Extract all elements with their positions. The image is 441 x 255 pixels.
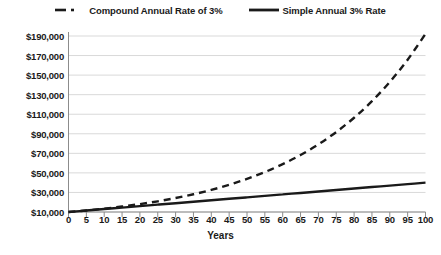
- plot-area: [0, 20, 441, 220]
- x-axis-tick-label: 75: [331, 214, 341, 225]
- legend-label-compound: Compound Annual Rate of 3%: [89, 5, 222, 16]
- x-axis-title: Years: [0, 230, 441, 241]
- x-axis-tick-label: 25: [153, 214, 163, 225]
- y-axis-tick-label: $110,000: [0, 109, 64, 120]
- y-axis-tick-label: $130,000: [0, 89, 64, 100]
- x-axis-tick-label: 15: [117, 214, 127, 225]
- y-axis-tick-label: $70,000: [0, 148, 64, 159]
- x-axis-tick-label: 40: [206, 214, 216, 225]
- y-axis-tick-label: $190,000: [0, 31, 64, 42]
- y-axis-tick-label: $30,000: [0, 187, 64, 198]
- x-axis-tick-label: 65: [295, 214, 305, 225]
- legend-label-simple: Simple Annual 3% Rate: [283, 5, 386, 16]
- x-axis-tick-label: 80: [349, 214, 359, 225]
- legend-entry-compound[interactable]: Compound Annual Rate of 3%: [55, 5, 222, 16]
- solid-line-marker-icon: [249, 5, 279, 15]
- series-line-compound: [69, 34, 426, 212]
- y-axis-tick-label: $50,000: [0, 167, 64, 178]
- dashed-line-marker-icon: [55, 5, 85, 15]
- x-axis-tick-label: 45: [224, 214, 234, 225]
- x-axis-tick-label: 50: [242, 214, 252, 225]
- x-axis-tick-label: 5: [84, 214, 89, 225]
- y-axis-tick-label: $90,000: [0, 128, 64, 139]
- chart-container: Compound Annual Rate of 3% Simple Annual…: [0, 0, 441, 255]
- plot-svg: [0, 20, 441, 220]
- legend-entry-simple[interactable]: Simple Annual 3% Rate: [249, 5, 386, 16]
- x-axis-tick-label: 20: [135, 214, 145, 225]
- x-axis-labels: 0510152025303540455055606570758085909510…: [0, 214, 441, 228]
- x-axis-tick-label: 95: [403, 214, 413, 225]
- series-line-simple: [69, 183, 426, 212]
- gridlines: [69, 36, 426, 212]
- x-axis-tick-label: 100: [418, 214, 433, 225]
- y-axis-tick-label: $150,000: [0, 70, 64, 81]
- x-axis-tick-label: 55: [260, 214, 270, 225]
- x-axis-tick-label: 35: [188, 214, 198, 225]
- y-axis-labels: $10,000$30,000$50,000$70,000$90,000$110,…: [0, 20, 64, 220]
- x-axis-tick-label: 85: [367, 214, 377, 225]
- chart-legend: Compound Annual Rate of 3% Simple Annual…: [0, 0, 441, 20]
- x-axis-tick-label: 0: [66, 214, 71, 225]
- x-axis-tick-label: 70: [313, 214, 323, 225]
- x-axis-tick-label: 30: [171, 214, 181, 225]
- x-axis-tick-label: 60: [278, 214, 288, 225]
- y-axis-tick-label: $170,000: [0, 50, 64, 61]
- x-axis-tick-label: 10: [99, 214, 109, 225]
- x-axis-tick-label: 90: [385, 214, 395, 225]
